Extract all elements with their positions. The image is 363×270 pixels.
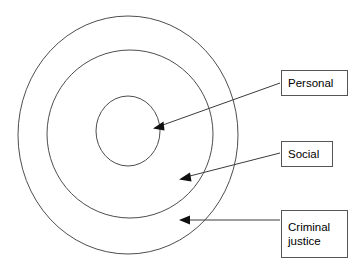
callout-arrow-criminal-justice bbox=[179, 216, 280, 225]
inner-ring-personal bbox=[96, 96, 160, 166]
callout-arrow-social bbox=[179, 153, 280, 182]
concentric-circles-diagram: Personal Social Criminal justice bbox=[0, 0, 363, 270]
label-criminal-justice-text-line1: Criminal bbox=[288, 220, 330, 234]
label-criminal-justice-text-line2: justice bbox=[288, 234, 321, 248]
middle-ring-social bbox=[47, 50, 213, 218]
callout-arrow-personal bbox=[153, 83, 280, 131]
label-personal-text: Personal bbox=[288, 76, 333, 90]
label-box-personal: Personal bbox=[281, 70, 348, 96]
label-social-text: Social bbox=[288, 147, 319, 161]
label-box-social: Social bbox=[281, 141, 333, 167]
label-box-criminal-justice: Criminal justice bbox=[281, 210, 348, 258]
